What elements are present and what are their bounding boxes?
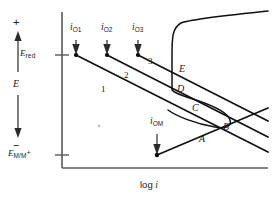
y-tick-label-e-m-mplus: EM/M+ xyxy=(8,149,31,158)
axis-sign-positive: + xyxy=(13,17,19,28)
arrow-head-down xyxy=(14,128,21,138)
point-label-d: D xyxy=(177,84,184,94)
i-om-subscript: OM xyxy=(153,120,163,127)
evans-diagram-figure: + − E Ered EM/M+ iO1 iO2 iO3 iOM 1 2 3 A… xyxy=(0,0,274,199)
i-o1-subscript: O1 xyxy=(73,26,82,33)
scan-speck xyxy=(98,125,101,128)
point-label-c: C xyxy=(192,103,199,113)
curve-label-3: 3 xyxy=(148,57,153,66)
point-label-b: B xyxy=(223,122,229,132)
label-i-om: iOM xyxy=(150,116,163,127)
e-m-symbol: E xyxy=(8,148,14,158)
anodic-tafel-line-group xyxy=(157,108,268,155)
x-axis-prefix: log xyxy=(140,179,153,190)
y-tick-label-e-red: Ered xyxy=(20,49,36,58)
x-axis-title: log i xyxy=(140,180,158,191)
arrow-head-up xyxy=(14,31,21,41)
x-axis-symbol: i xyxy=(155,180,158,190)
point-label-a: A xyxy=(199,134,205,144)
i-o2-subscript: O2 xyxy=(104,26,113,33)
label-i-o1: iO1 xyxy=(70,22,81,33)
y-axis-title: E xyxy=(13,79,19,89)
curve-label-1: 1 xyxy=(101,85,106,94)
e-red-subscript: red xyxy=(26,52,36,59)
tafel-line-anodic xyxy=(157,108,268,155)
point-label-e: E xyxy=(179,64,185,74)
label-i-o3: iO3 xyxy=(132,22,143,33)
e-red-symbol: E xyxy=(20,48,26,58)
curve-label-2: 2 xyxy=(124,71,129,80)
tafel-line-3 xyxy=(138,55,268,121)
axes-group xyxy=(55,12,268,168)
label-i-o2: iO2 xyxy=(101,22,112,33)
i-o3-subscript: O3 xyxy=(135,26,144,33)
e-m-superscript: + xyxy=(27,149,31,156)
tafel-line-2 xyxy=(107,55,268,137)
e-m-subscript: M/M xyxy=(14,152,27,159)
